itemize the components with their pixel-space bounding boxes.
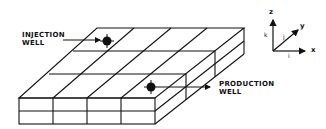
k-index-label: k xyxy=(264,31,267,38)
injection-label-line1: INJECTION xyxy=(22,31,65,39)
j-index-label: j xyxy=(283,33,285,40)
i-index-label: i xyxy=(288,52,290,59)
production-well-marker xyxy=(144,80,210,94)
y-axis-label: y xyxy=(300,22,305,30)
z-axis-label: z xyxy=(269,8,273,16)
injection-label-line2: WELL xyxy=(22,39,65,47)
grid-block-drawing xyxy=(0,0,326,129)
production-label-line1: PRODUCTION xyxy=(219,80,274,88)
production-label-line2: WELL xyxy=(219,88,274,96)
injection-well-label: INJECTION WELL xyxy=(22,31,65,47)
production-well-label: PRODUCTION WELL xyxy=(219,80,274,96)
x-axis-label: x xyxy=(311,46,316,54)
